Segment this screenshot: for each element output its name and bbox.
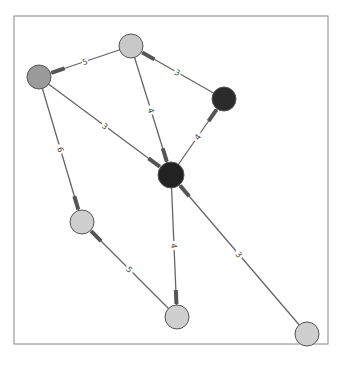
edge-labels-layer: 534346543	[55, 57, 244, 275]
graph-node-E	[70, 210, 94, 234]
edge-arrowhead	[163, 148, 167, 161]
edge-arrowhead	[176, 290, 177, 304]
graph-node-G	[295, 322, 319, 346]
nodes-layer	[27, 34, 319, 346]
edge-arrowhead	[180, 186, 189, 197]
graph-node-F	[165, 305, 189, 329]
graph-canvas: 534346543	[0, 0, 343, 373]
edge-arrowhead	[149, 158, 160, 166]
graph-node-B	[119, 34, 143, 58]
edge-weight-label: 6	[55, 146, 65, 153]
edge-weight-label: 4	[145, 107, 155, 115]
graph-node-C	[212, 87, 236, 111]
graph-node-A	[27, 65, 51, 89]
edge-arrowhead	[209, 110, 217, 121]
edge-arrowhead	[142, 52, 154, 59]
edge-arrowhead	[51, 68, 64, 72]
edge-weight-label: 4	[169, 243, 178, 248]
edges-layer	[39, 46, 307, 334]
edge-arrowhead	[74, 196, 78, 209]
edge-arrowhead	[91, 231, 101, 241]
graph-node-D	[158, 162, 184, 188]
